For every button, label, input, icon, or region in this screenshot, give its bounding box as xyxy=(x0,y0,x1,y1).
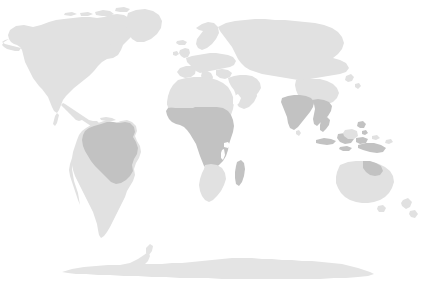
world-map-svg xyxy=(0,0,424,288)
world-map-container xyxy=(0,0,424,288)
